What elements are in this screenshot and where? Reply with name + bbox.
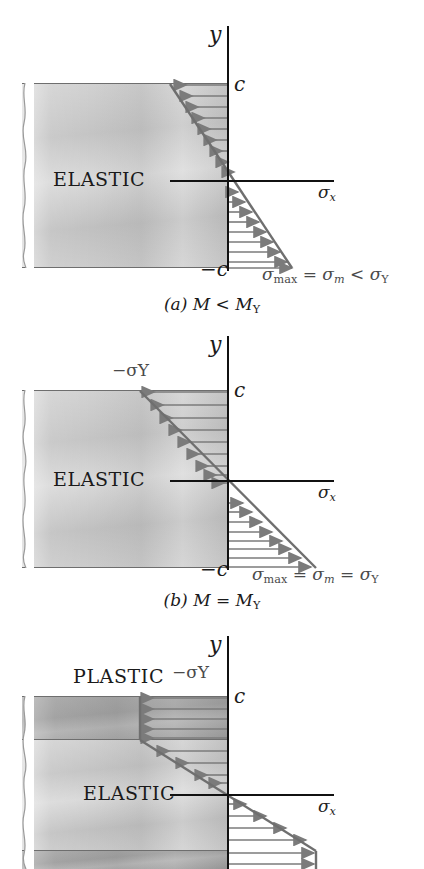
sub-m: m: [324, 573, 335, 586]
sigma-x-subscript: x: [330, 805, 336, 818]
sigma-x-subscript: x: [330, 191, 336, 204]
top-fiber-label-b: c: [234, 380, 245, 400]
sigma-2: σ: [312, 564, 324, 584]
bottom-fiber-label-b: −c: [200, 559, 228, 579]
caption-prefix-a: (a): [164, 294, 187, 314]
panel-c: y c PLASTIC −σY ELASTIC σx: [0, 610, 424, 869]
eq-2: =: [335, 564, 360, 584]
panel-caption-b: (b) M = MY: [0, 592, 424, 611]
sigma-3: σ: [370, 264, 382, 284]
stress-profile-line-a: [170, 84, 292, 268]
y-axis-a: [227, 26, 229, 271]
caption-sub-a: Y: [253, 303, 260, 316]
eq-1: =: [287, 564, 312, 584]
panel-caption-a: (a) M < MY: [0, 296, 424, 315]
panel-b: y c −c ELASTIC −σY σx σmax = σm = σY (b)…: [0, 320, 424, 610]
y-axis-b: [227, 336, 229, 570]
sigma-3: σ: [360, 564, 372, 584]
sub-max: max: [264, 573, 288, 586]
sub-m: m: [334, 273, 345, 286]
sub-Y: Y: [381, 273, 388, 286]
sigma-1: σ: [252, 564, 264, 584]
sigma-glyph: σ: [318, 482, 330, 502]
region-label-elastic-a: ELASTIC: [53, 170, 145, 189]
region-label-plastic-c: PLASTIC: [73, 667, 164, 686]
x-axis-label-a: σx: [318, 184, 336, 203]
top-fiber-label-c: c: [234, 686, 245, 706]
elastic-leader-b: [170, 480, 228, 482]
panel-a: y c −c ELASTIC σx σmax = σm < σY (a) M <…: [0, 0, 424, 320]
sub-max: max: [274, 273, 298, 286]
x-axis-label-b: σx: [318, 484, 336, 503]
sigma-2: σ: [322, 264, 334, 284]
x-axis-label-c: σx: [318, 798, 336, 817]
bottom-fiber-label-a: −c: [200, 259, 228, 279]
stress-magnitude-label-b: σmax = σm = σY: [252, 566, 379, 585]
caption-body-a: M < M: [193, 294, 253, 314]
lt-1: <: [345, 264, 370, 284]
sigma-x-subscript: x: [330, 491, 336, 504]
y-axis-label-a: y: [209, 24, 221, 46]
sigma-glyph: σ: [318, 182, 330, 202]
top-fiber-label-a: c: [234, 74, 245, 94]
y-axis-label-c: y: [209, 634, 221, 656]
elastic-leader-c: [170, 794, 228, 796]
y-axis-c: [227, 636, 229, 869]
elastic-leader-a: [170, 180, 228, 182]
yield-stress-label-c: −σY: [172, 664, 209, 681]
region-label-elastic-c: ELASTIC: [83, 784, 175, 803]
yield-stress-label-b: −σY: [112, 362, 149, 379]
caption-prefix-b: (b): [164, 590, 188, 610]
sigma-glyph: σ: [318, 796, 330, 816]
region-label-elastic-b: ELASTIC: [53, 470, 145, 489]
y-axis-label-b: y: [209, 334, 221, 356]
eq-1: =: [297, 264, 322, 284]
stress-magnitude-label-a: σmax = σm < σY: [262, 266, 389, 285]
sub-Y: Y: [371, 573, 378, 586]
caption-body-b: M = M: [193, 590, 253, 610]
sigma-1: σ: [262, 264, 274, 284]
